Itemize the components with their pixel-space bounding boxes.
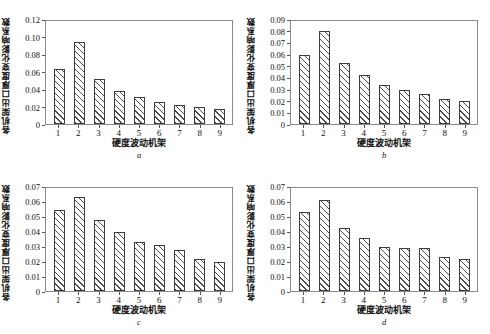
bar-6[interactable] xyxy=(399,248,410,291)
x-tick-slot: 1 xyxy=(48,125,68,139)
bar-slot xyxy=(149,21,169,124)
bar-slot xyxy=(209,21,229,124)
bar-slot xyxy=(374,188,394,291)
x-axis-ticks-d: 123456789 xyxy=(290,292,478,306)
y-tick-label: 0.05 xyxy=(25,213,40,222)
bar-2[interactable] xyxy=(74,42,85,124)
bar-slot xyxy=(129,188,149,291)
x-tick-slot: 9 xyxy=(210,292,230,306)
x-tick-slot: 7 xyxy=(414,292,434,306)
bar-1[interactable] xyxy=(54,69,65,124)
bar-slot xyxy=(454,188,474,291)
y-axis-ticks-b: 00.010.020.030.040.050.060.070.080.09 xyxy=(259,20,287,125)
x-tick-slot: 5 xyxy=(129,125,149,139)
bar-slot xyxy=(189,21,209,124)
bar-4[interactable] xyxy=(114,232,125,291)
y-tick-label: 0.02 xyxy=(25,258,40,267)
bar-4[interactable] xyxy=(114,91,125,124)
y-tick-label: 0.06 xyxy=(25,198,40,207)
y-tick-label: 0.03 xyxy=(270,243,285,252)
bar-5[interactable] xyxy=(134,97,145,124)
bar-7[interactable] xyxy=(419,248,430,291)
bar-9[interactable] xyxy=(214,262,225,291)
bar-series-d xyxy=(291,188,477,291)
bar-slot xyxy=(334,188,354,291)
bar-4[interactable] xyxy=(359,238,370,291)
y-tick-label: 0.05 xyxy=(270,213,285,222)
x-axis-ticks-b: 123456789 xyxy=(290,125,478,139)
x-tick-slot: 4 xyxy=(354,125,374,139)
bar-2[interactable] xyxy=(319,200,330,291)
panel-letter-b: b xyxy=(290,150,478,160)
x-axis-title-b: 硬度波动机架 xyxy=(290,138,478,149)
bar-4[interactable] xyxy=(359,75,370,124)
chart-panel-a: 各机架出口厚度变化影响系数 00.020.040.060.080.100.12 … xyxy=(0,0,245,167)
bar-6[interactable] xyxy=(154,245,165,291)
x-tick-slot: 5 xyxy=(129,292,149,306)
plot-area-a xyxy=(45,20,233,125)
panel-letter-d: d xyxy=(290,317,478,327)
y-tick-label: 0.02 xyxy=(270,97,285,106)
bar-6[interactable] xyxy=(399,90,410,124)
bar-1[interactable] xyxy=(299,212,310,291)
bar-8[interactable] xyxy=(439,99,450,124)
bar-1[interactable] xyxy=(299,55,310,124)
bar-slot xyxy=(354,21,374,124)
y-tick-label: 0.01 xyxy=(270,109,285,118)
bar-8[interactable] xyxy=(439,257,450,291)
bar-3[interactable] xyxy=(339,228,350,291)
bar-2[interactable] xyxy=(319,31,330,124)
y-axis-title-c: 各机架出口厚度变化影响系数 xyxy=(1,179,14,307)
y-axis-title-b: 各机架出口厚度变化影响系数 xyxy=(246,12,259,140)
chart-panel-c: 各机架出口厚度变化影响系数 00.010.020.030.040.050.060… xyxy=(0,167,245,334)
bar-7[interactable] xyxy=(174,250,185,291)
x-tick-slot: 4 xyxy=(109,292,129,306)
bar-slot xyxy=(414,188,434,291)
x-tick-slot: 7 xyxy=(169,292,189,306)
x-tick-slot: 8 xyxy=(190,292,210,306)
panel-letter-c: c xyxy=(45,317,233,327)
y-tick-label: 0.07 xyxy=(25,183,40,192)
bar-slot xyxy=(314,21,334,124)
y-tick-label: 0.04 xyxy=(270,228,285,237)
bar-6[interactable] xyxy=(154,102,165,124)
bar-series-a xyxy=(46,21,232,124)
x-tick-slot: 4 xyxy=(354,292,374,306)
x-tick-slot: 1 xyxy=(48,292,68,306)
bar-slot xyxy=(169,21,189,124)
bar-9[interactable] xyxy=(459,101,470,124)
bar-5[interactable] xyxy=(379,247,390,291)
y-tick-label: 0 xyxy=(36,288,40,297)
x-tick-slot: 5 xyxy=(374,292,394,306)
bar-3[interactable] xyxy=(339,63,350,124)
bar-3[interactable] xyxy=(94,220,105,291)
x-tick-slot: 6 xyxy=(149,125,169,139)
x-tick-slot: 7 xyxy=(414,125,434,139)
bar-3[interactable] xyxy=(94,79,105,124)
bar-9[interactable] xyxy=(459,259,470,291)
bar-slot xyxy=(334,21,354,124)
bar-7[interactable] xyxy=(174,105,185,124)
x-tick-slot: 3 xyxy=(88,125,108,139)
bar-5[interactable] xyxy=(379,85,390,124)
x-tick-slot: 2 xyxy=(68,292,88,306)
bar-8[interactable] xyxy=(194,107,205,124)
bar-2[interactable] xyxy=(74,197,85,291)
y-axis-ticks-a: 00.020.040.060.080.100.12 xyxy=(14,20,42,125)
y-tick-label: 0.03 xyxy=(270,86,285,95)
bar-8[interactable] xyxy=(194,259,205,291)
y-tick-label: 0 xyxy=(36,121,40,130)
x-tick-slot: 7 xyxy=(169,125,189,139)
x-tick-slot: 2 xyxy=(313,292,333,306)
bar-9[interactable] xyxy=(214,109,225,124)
bar-1[interactable] xyxy=(54,210,65,291)
y-tick-label: 0.04 xyxy=(25,228,40,237)
y-tick-label: 0.07 xyxy=(270,39,285,48)
x-tick-slot: 6 xyxy=(394,292,414,306)
y-tick-label: 0.04 xyxy=(270,74,285,83)
bar-slot xyxy=(374,21,394,124)
bar-slot xyxy=(434,21,454,124)
x-tick-slot: 8 xyxy=(435,125,455,139)
bar-7[interactable] xyxy=(419,94,430,124)
bar-5[interactable] xyxy=(134,242,145,291)
